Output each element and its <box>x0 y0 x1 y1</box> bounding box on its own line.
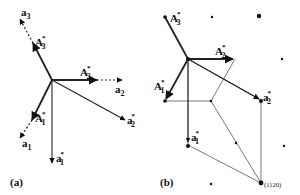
label-A2-star-b: A*2 <box>215 43 226 60</box>
crystal-axes-diagram: a3 A*3 A*2 a2 a*2 A*1 a1 a*1 (a) <box>0 0 300 195</box>
label-a2-star-b: a*2 <box>263 89 272 106</box>
panel-label-b: (b) <box>160 176 174 189</box>
label-A3-star-b: A*3 <box>170 10 181 27</box>
panel-label-a: (a) <box>10 176 23 189</box>
vector-a3 <box>20 19 33 43</box>
construction-line <box>211 59 235 101</box>
reflection-point <box>259 181 264 186</box>
label-A2-star: A*2 <box>80 64 91 81</box>
lattice-point <box>163 15 167 19</box>
label-A1-star-b: A*1 <box>154 78 165 95</box>
lattice-point <box>257 14 261 18</box>
vector-a2-star-b <box>188 59 259 99</box>
lattice-point <box>281 58 283 60</box>
lattice-point <box>186 144 190 148</box>
lattice-point <box>283 145 285 147</box>
origin-point <box>186 57 190 61</box>
construction-line <box>188 145 261 183</box>
label-a2: a2 <box>115 83 125 98</box>
reflection-label: (1120) <box>264 181 281 189</box>
label-A1-star: A*1 <box>35 110 46 127</box>
lattice-point <box>210 183 212 185</box>
lattice-point <box>211 16 213 18</box>
construction-node <box>210 100 213 103</box>
lattice-point <box>163 99 167 103</box>
midpoint-marker <box>235 142 238 145</box>
label-a3: a3 <box>21 6 31 21</box>
vector-A1-star-b <box>166 59 188 99</box>
panel-b: A*3 A*2 A*1 a*2 a*1 (1120) (b) <box>154 10 285 189</box>
label-a1: a1 <box>22 137 32 152</box>
label-a1-star: a*1 <box>56 150 65 167</box>
label-a1-star-b: a*1 <box>191 129 200 146</box>
panel-a: a3 A*3 A*2 a2 a*2 A*1 a1 a*1 (a) <box>10 6 136 189</box>
vector-a1 <box>20 120 32 138</box>
label-a2-star: a*2 <box>127 112 136 129</box>
